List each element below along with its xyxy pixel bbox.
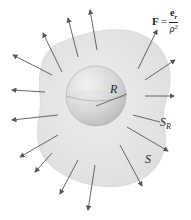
outer-surface-label: S: [145, 152, 151, 167]
radius-label: R: [110, 82, 117, 97]
numerator-subscript: r: [174, 13, 177, 21]
sphere-surface-label: SR: [160, 115, 171, 131]
formula-lhs: F: [152, 15, 159, 27]
sr-label-sub: R: [166, 122, 171, 131]
formula-fraction: er ρ²: [169, 8, 178, 34]
formula-denominator: ρ²: [170, 23, 178, 34]
formula-numerator: er: [169, 8, 178, 23]
force-formula: F = er ρ²: [152, 8, 178, 34]
formula-equals: =: [161, 15, 167, 27]
